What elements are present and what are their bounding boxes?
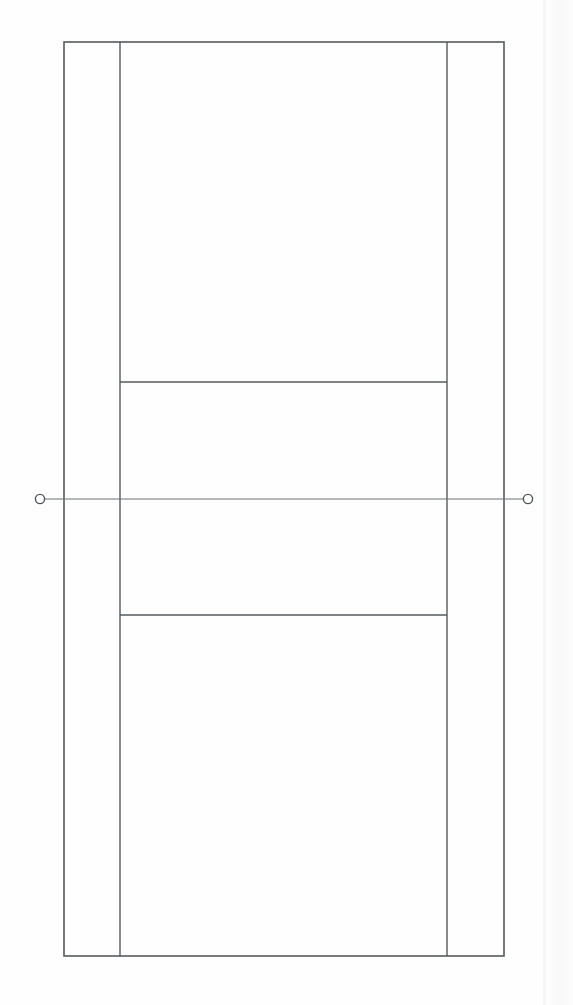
net-post-right-icon	[523, 494, 532, 503]
tennis-court-diagram	[0, 0, 573, 1005]
court-plan-svg	[0, 0, 573, 1005]
net-post-left-icon	[35, 494, 44, 503]
